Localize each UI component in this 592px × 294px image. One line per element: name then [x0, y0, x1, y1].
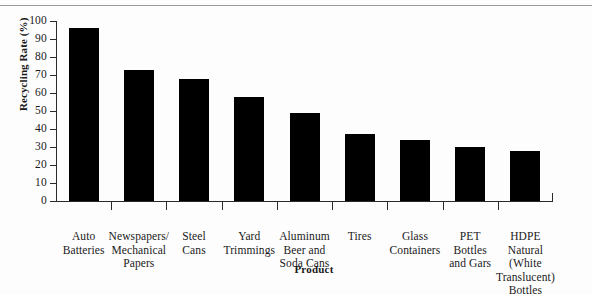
- x-axis-tick: [166, 202, 167, 210]
- y-axis-tick-label: 70: [35, 69, 47, 81]
- x-axis-tick: [277, 202, 278, 210]
- x-axis-end-tick: [552, 193, 553, 202]
- bar: [234, 97, 264, 201]
- y-axis-title: Recycling Rate (%): [17, 18, 29, 111]
- y-axis-tick: [50, 165, 56, 166]
- y-axis-tick-label: 0: [41, 195, 47, 207]
- y-axis-tick-label: 90: [35, 33, 47, 45]
- y-axis-tick: [50, 129, 56, 130]
- top-rule-divider: [0, 5, 592, 6]
- x-axis-tick: [111, 202, 112, 210]
- y-axis-tick: [50, 75, 56, 76]
- y-axis-tick-label: 40: [35, 123, 47, 135]
- y-axis-tick: [50, 201, 56, 202]
- y-axis-tick: [50, 183, 56, 184]
- bar: [400, 140, 430, 201]
- y-axis-tick-label: 80: [35, 51, 47, 63]
- recycling-rate-bar-chart: Recycling Rate (%) 100908070605040302010…: [0, 0, 592, 294]
- y-axis-tick-label: 20: [35, 159, 47, 171]
- y-axis-tick-label: 30: [35, 141, 47, 153]
- bar: [290, 113, 320, 201]
- x-axis-line: [56, 201, 553, 202]
- y-axis-tick: [50, 147, 56, 148]
- x-axis-title-text: Product: [294, 263, 333, 275]
- x-axis-tick: [332, 202, 333, 210]
- y-axis-tick: [50, 39, 56, 40]
- y-axis-tick-label: 60: [35, 87, 47, 99]
- y-axis-tick-label: 50: [35, 105, 47, 117]
- bar: [124, 70, 154, 201]
- bar: [455, 147, 485, 201]
- x-axis-tick: [498, 202, 499, 210]
- x-axis-category-label: HDPE Natural (White Translucent) Bottles: [492, 230, 559, 294]
- x-axis-tick: [222, 202, 223, 210]
- y-axis-tick: [50, 21, 56, 22]
- y-axis-tick-label: 100: [29, 15, 47, 27]
- y-axis-tick: [50, 111, 56, 112]
- y-axis-line: [56, 21, 57, 202]
- x-axis-tick: [443, 202, 444, 210]
- plot-area: 1009080706050403020100 Auto BatteriesNew…: [56, 21, 553, 201]
- bar: [179, 79, 209, 201]
- bar: [69, 28, 99, 201]
- x-axis-title: Product: [0, 263, 592, 275]
- x-axis-tick: [387, 202, 388, 210]
- bar: [510, 151, 540, 201]
- y-axis-tick-label: 10: [35, 177, 47, 189]
- bar: [345, 134, 375, 201]
- y-axis-tick: [50, 57, 56, 58]
- y-axis-tick: [50, 93, 56, 94]
